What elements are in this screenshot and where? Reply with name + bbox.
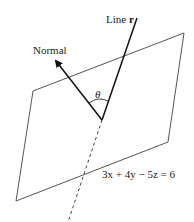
plane-line-diagram: Normal Line r θ 3x + 4y − 5z = 6 [0,0,194,222]
diagram-graphics [0,0,194,222]
line-r [102,18,137,120]
line-label-name: r [129,13,134,25]
normal-label: Normal [33,44,67,56]
line-r-dashed-below [68,120,102,222]
angle-theta-label: θ [95,88,100,100]
plane-equation-label: 3x + 4y − 5z = 6 [102,168,175,180]
line-label-prefix: Line [106,13,129,25]
line-r-label: Line r [106,13,134,25]
